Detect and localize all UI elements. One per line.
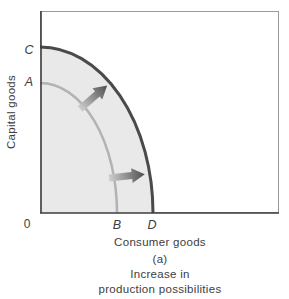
point-label-d: D bbox=[147, 218, 156, 232]
ppf-chart: C A B D 0 Capital goods Consumer goods (… bbox=[0, 0, 289, 299]
point-label-c: C bbox=[24, 43, 34, 57]
caption-line2: production possibilities bbox=[99, 283, 222, 295]
origin-label: 0 bbox=[24, 217, 31, 231]
point-label-a: A bbox=[24, 75, 33, 89]
caption-line1: Increase in bbox=[130, 268, 190, 280]
y-axis-label: Capital goods bbox=[5, 75, 17, 149]
ppf-figure: C A B D 0 Capital goods Consumer goods (… bbox=[0, 0, 289, 299]
x-axis-label: Consumer goods bbox=[114, 236, 206, 248]
point-label-b: B bbox=[113, 218, 121, 232]
caption-panel-letter: (a) bbox=[153, 253, 168, 265]
